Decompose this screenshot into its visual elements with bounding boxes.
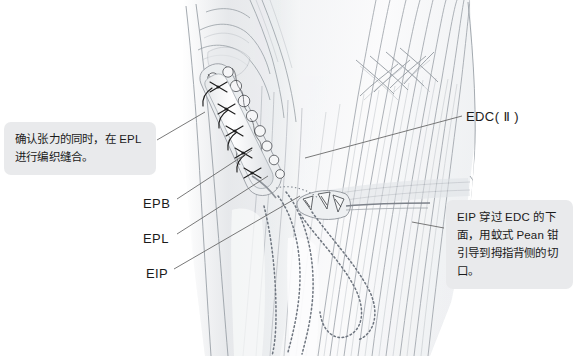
callout-epl-weave-suture: 确认张力的同时，在 EPL 进行编织缝合。 bbox=[4, 122, 156, 175]
callout-eip-routing: EIP 穿过 EDC 的下面，用蚊式 Pean 钳引导到拇指背侧的切口。 bbox=[446, 200, 573, 289]
label-epb: EPB bbox=[143, 196, 170, 211]
label-epl: EPL bbox=[143, 231, 169, 246]
label-edc: EDC( Ⅱ ) bbox=[466, 109, 519, 124]
label-eip: EIP bbox=[146, 266, 168, 281]
figure-root: 确认张力的同时，在 EPL 进行编织缝合。 EIP 穿过 EDC 的下面，用蚊式… bbox=[0, 0, 583, 356]
anatomy-illustration bbox=[0, 0, 583, 356]
